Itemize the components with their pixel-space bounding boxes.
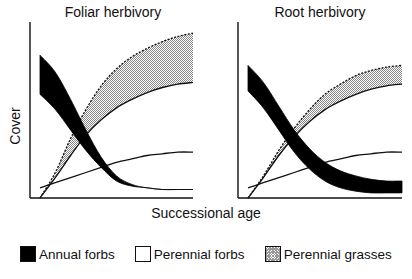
legend-label-annual-forbs: Annual forbs	[39, 247, 115, 262]
panel-root-herbivory	[238, 22, 402, 198]
legend-swatch-perennial-forbs	[135, 246, 151, 262]
legend-label-perennial-forbs: Perennial forbs	[154, 247, 245, 262]
legend-item-perennial-forbs: Perennial forbs	[135, 246, 245, 262]
legend-item-perennial-grasses: Perennial grasses	[265, 246, 392, 262]
legend: Annual forbs Perennial forbs Perennial g…	[20, 246, 412, 262]
legend-item-annual-forbs: Annual forbs	[20, 246, 115, 262]
legend-swatch-annual-forbs	[20, 246, 36, 262]
panel-foliar-herbivory	[30, 22, 193, 198]
chart-plot	[0, 0, 412, 279]
legend-label-perennial-grasses: Perennial grasses	[284, 247, 392, 262]
legend-swatch-perennial-grasses	[265, 246, 281, 262]
